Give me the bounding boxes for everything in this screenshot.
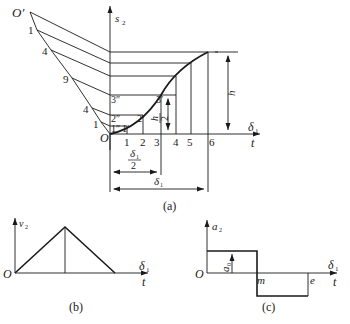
h-label: h (225, 90, 237, 96)
delta-label: δ 1 (154, 175, 163, 188)
delta-half-label: δ 1 2 (128, 147, 141, 171)
caption-c: (c) (262, 300, 275, 314)
h-half-label: h 2 (149, 113, 170, 123)
point-3d: 3′ (156, 94, 163, 105)
origin-label-c: O (195, 267, 204, 281)
svg-text:0: 0 (226, 263, 232, 266)
origin-label-a: O (100, 131, 109, 145)
pole-label: O′ (12, 5, 24, 20)
svg-text:2: 2 (131, 160, 136, 171)
point-2d: 2′ (137, 113, 144, 124)
kinematics-diagram: O′ 1 4 9 4 1 O s 2 3″ 3′ 2″ 2′ 1″ 1′ 1 2… (0, 0, 350, 324)
v2-axis-label: v (19, 218, 24, 229)
caption-b: (b) (69, 300, 83, 314)
delta-axis-sub-c: 1 (335, 265, 339, 273)
figure-a-displacement (30, 6, 260, 192)
t-axis-label: t (251, 136, 255, 150)
tick-1: 1 (124, 136, 130, 148)
delta-axis-sub: 1 (255, 127, 259, 135)
s2-axis-sub: 2 (122, 19, 126, 27)
pole-line (30, 12, 110, 134)
fan-ray-4 (51, 50, 110, 76)
fan-label-4b: 4 (83, 103, 89, 115)
a2-axis-sub: 2 (219, 227, 222, 233)
fan-label-1: 1 (28, 24, 34, 36)
svg-text:1: 1 (136, 154, 139, 160)
caption-a: (a) (163, 199, 176, 213)
fan-label-4: 4 (42, 45, 48, 57)
figure-c-acceleration (207, 220, 337, 296)
point-1dd: 1″ (111, 123, 120, 134)
fan-label-9: 9 (63, 73, 69, 85)
delta-axis-sub-b: 1 (146, 266, 150, 274)
delta-axis-label-c: δ (328, 258, 334, 272)
svg-text:2: 2 (159, 116, 170, 121)
figure-c-labels: a 2 O a 0 m e δ 1 t (c) (195, 220, 339, 314)
v2-axis-sub: 2 (25, 224, 28, 230)
end-label: e (310, 274, 315, 286)
tick-6: 6 (209, 136, 215, 148)
tick-3: 3 (154, 136, 160, 148)
delta-axis-label: δ (248, 120, 254, 134)
figure-a-labels: O′ 1 4 9 4 1 O s 2 3″ 3′ 2″ 2′ 1″ 1′ 1 2… (12, 5, 259, 213)
point-3dd: 3″ (111, 94, 120, 105)
fan-label-1b: 1 (93, 118, 99, 130)
figure-b-labels: v 2 O δ 1 t (b) (3, 218, 150, 314)
a0-label: a 0 (219, 263, 232, 272)
delta-axis-label-b: δ (139, 259, 145, 273)
a2-axis-label: a (212, 220, 218, 232)
figure-b-velocity (15, 218, 148, 273)
point-1d: 1′ (122, 123, 129, 134)
s2-axis-label: s (115, 12, 119, 24)
tick-5: 5 (187, 136, 193, 148)
tick-2: 2 (140, 136, 146, 148)
t-axis-label-c: t (333, 275, 337, 289)
t-axis-label-b: t (142, 275, 146, 289)
svg-text:1: 1 (160, 182, 163, 188)
mid-label: m (257, 274, 265, 286)
tick-4: 4 (173, 136, 179, 148)
origin-label-b: O (3, 267, 12, 281)
